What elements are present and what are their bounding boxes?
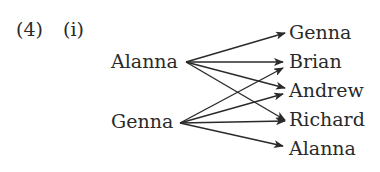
arrow-alanna-genna: [186, 33, 285, 62]
arrow-genna-andrew: [180, 94, 283, 123]
mapping-arrows: [0, 0, 380, 172]
arrow-genna-richard: [180, 121, 285, 123]
arrow-genna-alanna: [180, 123, 283, 146]
arrow-genna-brian: [180, 68, 283, 123]
